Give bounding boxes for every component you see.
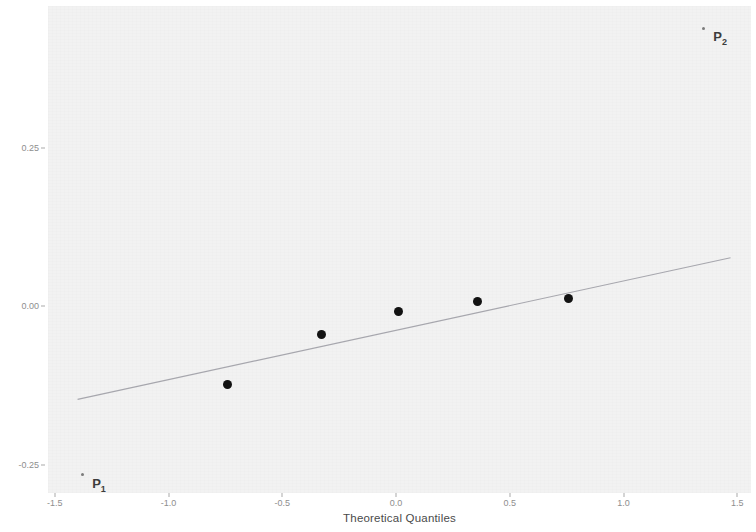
x-tick-mark [737, 493, 738, 497]
outlier-point-marker [702, 27, 705, 30]
x-tick-label: 1.0 [617, 498, 630, 508]
y-tick-mark [41, 306, 45, 307]
outlier-label-p1: P1 [92, 476, 106, 493]
x-tick-label: -1.5 [47, 498, 63, 508]
y-tick-mark [41, 148, 45, 149]
x-tick-label: 0.5 [504, 498, 517, 508]
plot-panel: P1P2 [48, 6, 751, 493]
x-tick-label: -1.0 [161, 498, 177, 508]
outlier-label-p2: P2 [713, 29, 727, 47]
data-point [317, 330, 326, 339]
y-axis-title-text: Effect Estimates [0, 225, 1, 307]
y-tick-mark [41, 464, 45, 465]
x-tick-label: 1.5 [731, 498, 744, 508]
x-tick-label: -0.5 [275, 498, 291, 508]
y-axis-title: Effect Estimates [0, 0, 26, 532]
outlier-point-marker [81, 473, 84, 476]
x-tick-mark [623, 493, 624, 497]
qq-plot-figure: P1P2 0.250.00-0.25 Effect Estimates -1.5… [0, 0, 756, 532]
x-tick-mark [54, 493, 55, 497]
x-tick-mark [396, 493, 397, 497]
x-tick-mark [168, 493, 169, 497]
qq-reference-line [48, 6, 751, 493]
x-axis-title: Theoretical Quantiles [48, 512, 751, 524]
x-tick-mark [509, 493, 510, 497]
data-point [394, 307, 403, 316]
x-tick-mark [282, 493, 283, 497]
x-tick-label: 0.0 [390, 498, 403, 508]
